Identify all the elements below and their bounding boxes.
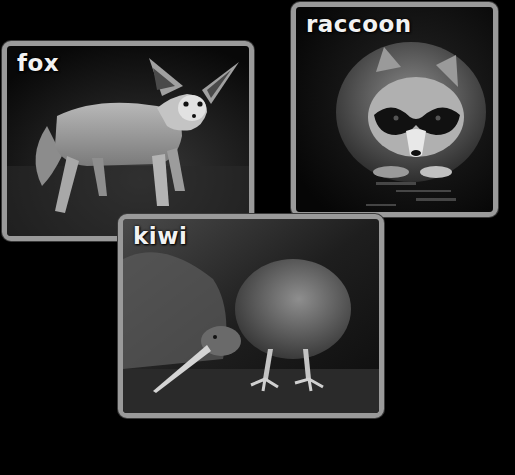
fox-label: fox (17, 50, 59, 76)
kiwi-card[interactable]: kiwi (118, 214, 384, 418)
raccoon-label: raccoon (306, 11, 412, 37)
raccoon-card[interactable]: raccoon (291, 2, 498, 217)
raccoon-photo (296, 7, 493, 212)
fox-card[interactable]: fox (2, 41, 254, 241)
kiwi-label: kiwi (133, 223, 187, 249)
